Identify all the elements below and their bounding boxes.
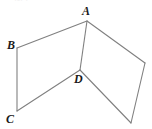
vertex-label-a: A xyxy=(82,5,90,17)
vertex-label-d: D xyxy=(74,73,83,85)
vertex-label-b: B xyxy=(7,39,15,51)
geometry-figure: ·-· · A B C D xyxy=(0,0,152,129)
right-quadrilateral-face xyxy=(80,21,145,123)
figure-canvas xyxy=(0,0,152,129)
vertex-label-c: C xyxy=(6,113,14,125)
